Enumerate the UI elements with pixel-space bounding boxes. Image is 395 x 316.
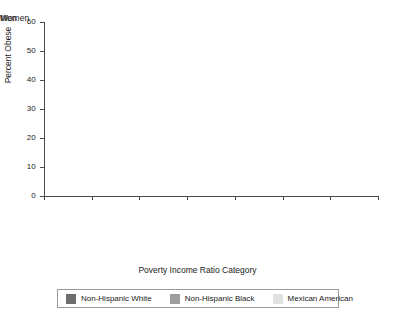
legend-swatch-icon — [273, 294, 283, 304]
y-tick-label: 30 — [10, 104, 36, 113]
y-tick-mark — [40, 80, 44, 81]
legend-swatch-icon — [66, 294, 76, 304]
y-tick-label: 10 — [10, 162, 36, 171]
legend-item-non-hispanic-black: Non-Hispanic Black — [170, 294, 255, 304]
x-tick-mark — [139, 196, 140, 200]
y-tick-mark — [40, 109, 44, 110]
y-tick-mark — [40, 22, 44, 23]
legend-item-mexican-american: Mexican American — [273, 294, 353, 304]
x-tick-mark — [44, 196, 45, 200]
x-axis-line — [44, 196, 379, 197]
y-tick-label: 60 — [10, 17, 36, 26]
legend-item-non-hispanic-white: Non-Hispanic White — [66, 294, 152, 304]
x-tick-mark — [92, 196, 93, 200]
plot-area — [44, 22, 378, 196]
y-tick-mark — [40, 167, 44, 168]
y-tick-mark — [40, 138, 44, 139]
obesity-bar-chart-figure: Percent Obese Men Women 0102030405060 Po… — [0, 0, 395, 316]
legend-swatch-icon — [170, 294, 180, 304]
x-axis-title: Poverty Income Ratio Category — [0, 265, 395, 275]
legend-label: Mexican American — [288, 294, 353, 303]
y-tick-mark — [40, 51, 44, 52]
y-tick-label: 50 — [10, 46, 36, 55]
x-tick-mark — [283, 196, 284, 200]
y-tick-label: 0 — [10, 191, 36, 200]
legend-label: Non-Hispanic White — [81, 294, 152, 303]
x-tick-mark — [187, 196, 188, 200]
x-tick-mark — [378, 196, 379, 200]
x-tick-mark — [330, 196, 331, 200]
y-tick-label: 40 — [10, 75, 36, 84]
x-tick-mark — [235, 196, 236, 200]
chart-legend: Non-Hispanic White Non-Hispanic Black Me… — [57, 289, 339, 308]
y-tick-label: 20 — [10, 133, 36, 142]
legend-label: Non-Hispanic Black — [185, 294, 255, 303]
